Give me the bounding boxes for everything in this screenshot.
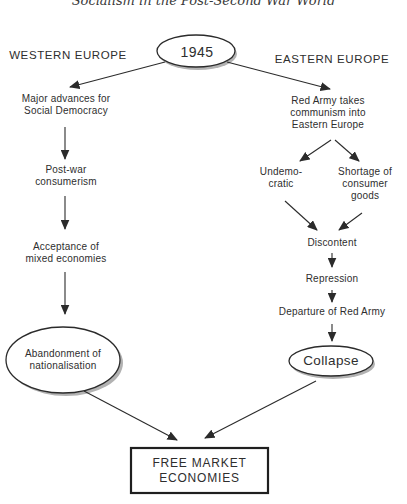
- node-collapse-label: Collapse: [289, 353, 373, 368]
- node-1945-label: 1945: [158, 44, 236, 60]
- node-mixed-economies: Acceptance of mixed economies: [1, 241, 131, 265]
- arrow-abandonment-to-freemarket: [84, 391, 177, 440]
- node-red-army: Red Army takes communism into Eastern Eu…: [268, 95, 388, 131]
- arrow-collapse-to-freemarket: [205, 381, 316, 438]
- arrow-shortage-to-discontent: [339, 213, 362, 230]
- arrow-1945-to-west: [70, 62, 165, 87]
- region-label-western-europe: WESTERN EUROPE: [8, 49, 128, 62]
- node-free-market-label: FREE MARKET ECONOMIES: [132, 456, 267, 486]
- arrow-undemocratic-to-discontent: [285, 201, 317, 230]
- node-repression: Repression: [282, 273, 382, 285]
- node-abandonment-label: Abandonment of nationalisation: [6, 348, 120, 372]
- node-departure-red-army: Departure of Red Army: [267, 306, 397, 318]
- arrow-1945-to-east: [227, 62, 330, 89]
- node-shortage-goods: Shortage of consumer goods: [330, 166, 400, 202]
- node-discontent: Discontent: [282, 237, 382, 249]
- node-undemocratic: Undemo- cratic: [251, 166, 311, 190]
- region-label-eastern-europe: EASTERN EUROPE: [272, 53, 392, 66]
- diagram-page: Socialism in the Post-Second War World: [0, 0, 407, 504]
- arrow-east-split-shortage: [335, 140, 359, 161]
- arrow-east-split-undemocratic: [300, 140, 331, 161]
- node-major-advances: Major advances for Social Democracy: [1, 93, 131, 117]
- node-postwar-consumerism: Post-war consumerism: [1, 164, 131, 188]
